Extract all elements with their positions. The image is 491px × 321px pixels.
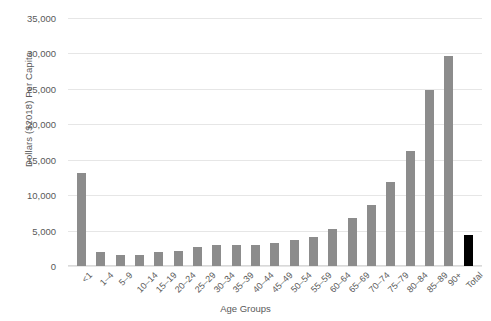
bar-slot <box>149 18 168 266</box>
x-tick-slot: 40–44 <box>246 268 265 308</box>
bar <box>328 229 337 266</box>
bar <box>270 243 279 266</box>
bar <box>348 218 357 266</box>
x-tick-slot: 85–89 <box>420 268 439 308</box>
bar-slot <box>381 18 400 266</box>
x-tick-slot: 5–9 <box>111 268 130 308</box>
x-tick-slot: 25–29 <box>188 268 207 308</box>
bar-slot <box>188 18 207 266</box>
bar <box>425 90 434 266</box>
bar-slot <box>323 18 342 266</box>
bar-slot <box>130 18 149 266</box>
bar-slot <box>246 18 265 266</box>
x-tick-slot: 90+ <box>439 268 458 308</box>
y-axis-tick-label: 30,000 <box>27 48 56 59</box>
bar-slot <box>304 18 323 266</box>
x-axis-tick-labels: <11–45–910–1415–1920–2425–2930–3435–3940… <box>68 268 482 308</box>
bar-slot <box>343 18 362 266</box>
x-tick-slot: 45–49 <box>265 268 284 308</box>
x-axis-tick-label: Total <box>464 270 485 291</box>
bar-slot <box>459 18 478 266</box>
bar <box>212 245 221 266</box>
bar <box>444 56 453 266</box>
x-tick-slot: Total <box>459 268 478 308</box>
x-tick-slot: 70–74 <box>362 268 381 308</box>
y-axis-tick-label: 5,000 <box>32 225 56 236</box>
y-axis-tick-label: 35,000 <box>27 13 56 24</box>
bar <box>464 235 473 266</box>
y-axis-tick-label: 15,000 <box>27 154 56 165</box>
bar-slot <box>91 18 110 266</box>
bar <box>290 240 299 266</box>
bar <box>251 245 260 266</box>
bar-slot <box>207 18 226 266</box>
x-axis-title: Age Groups <box>0 303 491 314</box>
bar-series <box>68 18 482 266</box>
x-tick-slot: 55–59 <box>304 268 323 308</box>
bar-slot <box>265 18 284 266</box>
bar <box>116 255 125 266</box>
x-tick-slot: <1 <box>72 268 91 308</box>
x-tick-slot: 20–24 <box>169 268 188 308</box>
x-tick-slot: 50–54 <box>285 268 304 308</box>
bar-slot <box>169 18 188 266</box>
bar-slot <box>439 18 458 266</box>
bar <box>367 205 376 266</box>
y-axis-tick-label: 20,000 <box>27 119 56 130</box>
y-axis-tick-label: 10,000 <box>27 190 56 201</box>
x-tick-slot: 10–14 <box>130 268 149 308</box>
bar <box>154 252 163 266</box>
x-tick-slot: 75–79 <box>381 268 400 308</box>
bar <box>193 247 202 266</box>
x-tick-slot: 65–69 <box>343 268 362 308</box>
y-axis-tick-labels: 35,00030,00025,00020,00015,00010,0005,00… <box>0 18 62 266</box>
bar-slot <box>401 18 420 266</box>
bar <box>96 252 105 266</box>
bar <box>309 237 318 266</box>
bar-slot <box>420 18 439 266</box>
bar-slot <box>285 18 304 266</box>
bar <box>232 245 241 266</box>
bar-slot <box>362 18 381 266</box>
bar <box>135 255 144 266</box>
x-tick-slot: 30–34 <box>207 268 226 308</box>
y-axis-tick-label: 0 <box>51 261 56 272</box>
bar-slot <box>111 18 130 266</box>
bar-chart: Dollars ($2018) Per Capita 35,00030,0002… <box>0 0 491 321</box>
x-tick-slot: 60–64 <box>323 268 342 308</box>
y-axis-tick-label: 25,000 <box>27 83 56 94</box>
x-tick-slot: 15–19 <box>149 268 168 308</box>
x-tick-slot: 1–4 <box>91 268 110 308</box>
bar-slot <box>72 18 91 266</box>
x-tick-slot: 80–84 <box>401 268 420 308</box>
bar <box>77 173 86 266</box>
bar-slot <box>227 18 246 266</box>
x-tick-slot: 35–39 <box>227 268 246 308</box>
bar <box>174 251 183 266</box>
gridline <box>68 266 482 267</box>
plot-area <box>68 18 482 266</box>
bar <box>386 182 395 266</box>
bar <box>406 151 415 266</box>
